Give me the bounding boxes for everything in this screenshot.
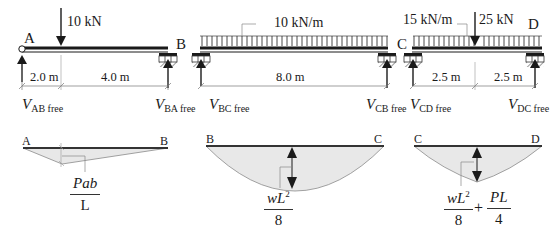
moment-node-label-a: A xyxy=(22,135,31,147)
moment-diagram-bc xyxy=(206,146,384,191)
point-load-label-ab: 10 kN xyxy=(67,15,102,29)
moment-formula-ab: Pab L xyxy=(70,176,100,214)
reaction-label-cb: VCB free xyxy=(366,97,407,114)
reaction-label-cd: VCD free xyxy=(410,97,451,114)
moment-formula-cd-term1: wL2 8 xyxy=(444,190,473,229)
reaction-label-bc: VBC free xyxy=(209,97,250,114)
moment-formula-cd-operator: + xyxy=(474,199,483,217)
dimension-label-cd-2: 2.5 m xyxy=(494,71,522,84)
dimension-label-cd-1: 2.5 m xyxy=(432,71,460,84)
dimension-label-bc: 8.0 m xyxy=(276,71,304,84)
dimension-label-ab-1: 2.0 m xyxy=(30,71,58,84)
node-label-c: C xyxy=(397,37,407,52)
moment-formula-cd-term2: PL 4 xyxy=(487,190,511,228)
node-label-d: D xyxy=(528,17,539,32)
reaction-label-ba: VBA free xyxy=(155,97,196,114)
moment-node-label-c2: C xyxy=(414,133,422,145)
moment-node-label-d: D xyxy=(531,133,540,145)
point-load-label-cd: 25 kN xyxy=(479,13,514,27)
moment-node-label-c: C xyxy=(374,133,382,145)
moment-node-label-b2: B xyxy=(206,133,214,145)
node-label-a: A xyxy=(24,31,35,46)
moment-node-label-b: B xyxy=(160,135,168,147)
dimension-label-ab-2: 4.0 m xyxy=(101,71,129,84)
moment-formula-bc: wL2 8 xyxy=(264,190,293,229)
udl-leader-bc xyxy=(242,24,256,36)
reaction-label-ab: VAB free xyxy=(22,97,63,114)
node-label-b: B xyxy=(176,37,186,52)
pin-a-icon xyxy=(19,46,25,52)
moment-diagram-ab xyxy=(23,143,168,172)
udl-label-cd: 15 kN/m xyxy=(403,13,452,27)
udl-leader-cd xyxy=(457,24,467,36)
udl-label-bc: 10 kN/m xyxy=(274,16,323,30)
moment-diagram-cd xyxy=(414,146,542,186)
reaction-label-dc: VDC free xyxy=(508,97,549,114)
